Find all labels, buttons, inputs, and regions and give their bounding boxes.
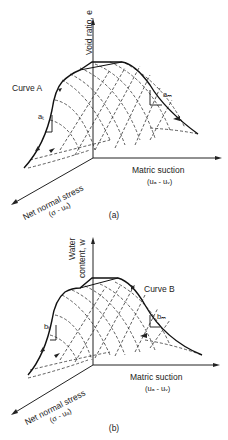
surface-mesh xyxy=(28,282,202,378)
figure-a: Void ratio, e Curve A aₜ aₘ Matric sucti… xyxy=(0,0,228,220)
curve-a-label: Curve A xyxy=(12,83,42,93)
slope-label-right: bₘ xyxy=(157,312,166,322)
constitutive-surface-void-ratio xyxy=(0,0,228,220)
arrow-head-icon xyxy=(11,199,18,205)
slope-label-left: bₜ xyxy=(44,322,50,332)
arrow-head-icon xyxy=(215,156,222,160)
vertical-axis-label-line2: content, w xyxy=(77,239,87,278)
figure-caption-b: (b) xyxy=(0,423,228,433)
horizontal-axis-unit: (uₐ - uᵥ) xyxy=(147,177,172,187)
horizontal-axis-label: Matric suction xyxy=(132,165,184,175)
horizontal-axis-label: Matric suction xyxy=(130,372,182,382)
arrow-head-icon xyxy=(91,237,95,244)
arrow-icon xyxy=(54,353,60,358)
arrow-head-icon xyxy=(213,363,220,367)
arrow-head-icon xyxy=(11,409,18,415)
curve-b-label: Curve B xyxy=(144,284,175,294)
figure-caption-a: (a) xyxy=(0,210,228,220)
arrow-icon xyxy=(58,88,62,92)
arrow-icon xyxy=(49,148,55,153)
constitutive-surface-water-content xyxy=(0,220,228,440)
vertical-axis-label-line1: Water xyxy=(67,238,77,260)
vertical-axis-label: Void ratio, e xyxy=(84,10,94,55)
figure-b: Water content, w Curve B bₜ bₘ Matric su… xyxy=(0,220,228,440)
arrow-icon xyxy=(140,333,147,338)
slope-label-right: aₘ xyxy=(163,90,172,100)
curve-a-line xyxy=(24,62,198,168)
horizontal-axis-unit: (uₐ - uᵥ) xyxy=(145,384,170,394)
slope-label-left: aₜ xyxy=(38,112,44,122)
surface-mesh xyxy=(28,62,198,168)
